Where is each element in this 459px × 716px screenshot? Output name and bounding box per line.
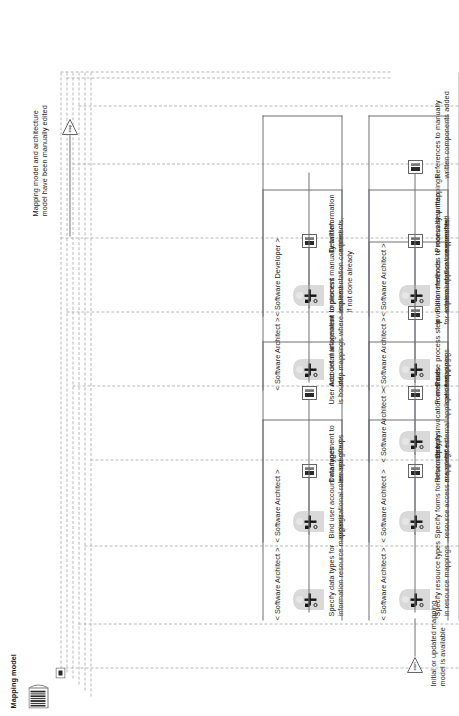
lane-frame-8	[368, 115, 448, 316]
rotated-canvas: Mapping model start Initial or updated m…	[0, 0, 459, 716]
lane-feed-1	[60, 667, 458, 668]
data-association-5	[84, 72, 85, 690]
lane-feed-9	[78, 105, 458, 106]
start-connector	[414, 618, 415, 656]
annotation-icon	[55, 667, 65, 678]
lane-feed-2	[78, 623, 458, 624]
lane-frame-9	[262, 115, 342, 316]
data-object-label: Mapping model	[8, 618, 17, 708]
data-association-right-1	[60, 71, 390, 72]
end-connector	[69, 134, 70, 236]
data-association-1	[60, 72, 61, 668]
end-event-label: Mapping model and architecture model hav…	[30, 16, 48, 216]
diagram-canvas: Mapping model start Initial or updated m…	[0, 0, 459, 716]
data-association-2	[66, 72, 67, 672]
data-association-6	[90, 72, 91, 696]
start-event-badge: start	[412, 662, 416, 670]
document-barcode-icon	[28, 674, 49, 708]
data-association-right-2	[66, 77, 390, 78]
end-event-badge: stop	[67, 124, 71, 132]
